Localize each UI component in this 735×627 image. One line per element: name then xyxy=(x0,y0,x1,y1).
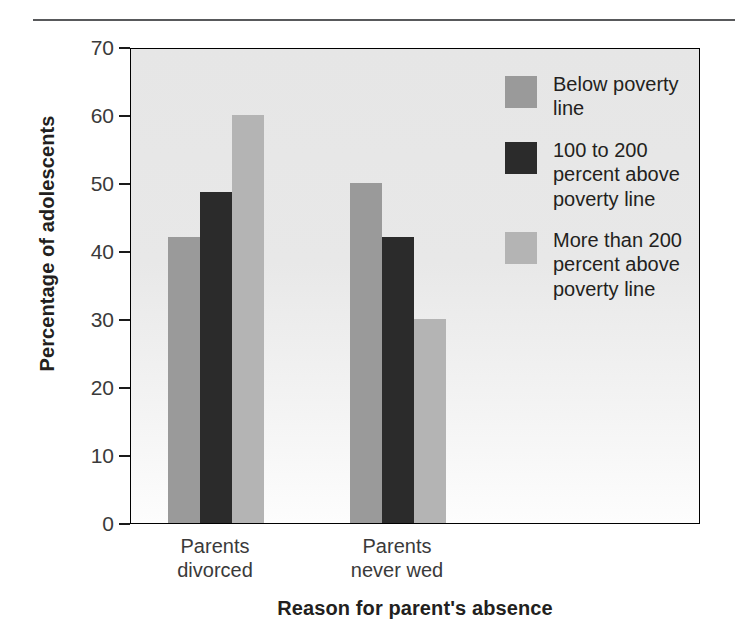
bar xyxy=(232,115,264,523)
legend-label: More than 200 percent above poverty line xyxy=(553,228,695,301)
top-horizontal-rule xyxy=(33,19,735,21)
y-axis-tick-mark xyxy=(119,455,130,457)
x-axis-category-label: Parents divorced xyxy=(125,534,305,583)
bar xyxy=(168,237,200,523)
x-axis-category-label: Parents never wed xyxy=(307,534,487,583)
y-axis-tick-mark xyxy=(119,251,130,253)
y-axis-tick-mark xyxy=(119,523,130,525)
legend-item: More than 200 percent above poverty line xyxy=(505,228,695,301)
y-axis-tick-label: 70 xyxy=(68,37,114,58)
bar xyxy=(200,192,232,523)
y-axis-tick-label: 60 xyxy=(68,105,114,126)
y-axis-tick-labels: 010203040506070 xyxy=(62,0,114,627)
bar xyxy=(350,183,382,523)
legend-swatch xyxy=(505,142,537,174)
y-axis-tick-mark xyxy=(119,183,130,185)
x-axis-title: Reason for parent's absence xyxy=(130,597,700,620)
legend-item: 100 to 200 percent above poverty line xyxy=(505,138,695,211)
y-axis-tick-label: 40 xyxy=(68,241,114,262)
y-axis-tick-label: 0 xyxy=(68,513,114,534)
y-axis-tick-mark xyxy=(119,47,130,49)
legend-swatch xyxy=(505,232,537,264)
y-axis-tick-label: 30 xyxy=(68,309,114,330)
legend-label: Below poverty line xyxy=(553,72,695,121)
y-axis-title: Percentage of adolescents xyxy=(36,99,59,389)
bar-chart-figure: Percentage of adolescents 01020304050607… xyxy=(0,0,735,627)
y-axis-tick-mark xyxy=(119,319,130,321)
y-axis-tick-label: 20 xyxy=(68,377,114,398)
legend-swatch xyxy=(505,76,537,108)
legend-label: 100 to 200 percent above poverty line xyxy=(553,138,695,211)
y-axis-tick-label: 50 xyxy=(68,173,114,194)
bar xyxy=(414,319,446,523)
bar xyxy=(382,237,414,523)
y-axis-tick-label: 10 xyxy=(68,445,114,466)
y-axis-tick-mark xyxy=(119,387,130,389)
legend-item: Below poverty line xyxy=(505,72,695,121)
y-axis-tick-mark xyxy=(119,115,130,117)
legend: Below poverty line100 to 200 percent abo… xyxy=(505,72,695,318)
